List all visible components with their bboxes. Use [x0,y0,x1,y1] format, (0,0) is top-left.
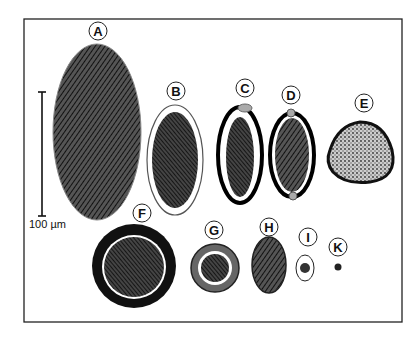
label-d: D [282,86,300,104]
specimen-h [252,237,286,293]
specimen-g [191,244,239,292]
label-i: I [299,228,317,246]
specimen-k [335,264,342,271]
label-g: G [205,221,223,239]
svg-text:A: A [93,24,103,39]
specimen-a [53,44,141,220]
label-e: E [355,94,373,112]
svg-text:H: H [264,220,273,235]
svg-text:D: D [286,88,295,103]
specimen-e [328,122,393,183]
specimen-f [92,224,176,308]
specimen-d [270,109,314,200]
svg-text:B: B [171,84,180,99]
label-a: A [89,22,107,40]
svg-text:E: E [360,96,369,111]
svg-text:F: F [138,206,146,221]
scale-bar-label: 100 µm [29,218,66,230]
specimen-b [147,105,203,215]
svg-text:I: I [306,230,310,245]
label-c: C [236,79,254,97]
label-k: K [329,238,347,256]
svg-text:C: C [240,81,250,96]
egg-diagram: A B C D E F G H I K 100 µm [0,0,420,344]
label-b: B [167,82,185,100]
svg-text:G: G [209,223,219,238]
label-f: F [133,204,151,222]
specimen-i [296,255,314,281]
svg-text:K: K [333,240,343,255]
specimen-c [218,104,262,203]
label-h: H [260,218,278,236]
scale-bar [38,92,46,216]
